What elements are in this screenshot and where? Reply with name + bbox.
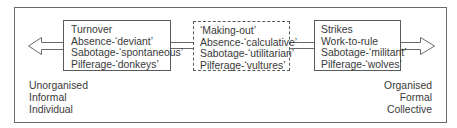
right-pole-label: Collective [384,104,432,116]
right-box-line: Strikes [321,24,400,36]
left-box-individual-conflict: Turnover Absence-‘deviant’ Sabotage-‘spo… [63,20,171,71]
right-pole-label: Formal [384,92,432,104]
left-box-line: Turnover [71,24,170,36]
middle-box-line: Absence-‘calculative’ [200,37,289,49]
left-box-line: Pilferage-‘donkeys’ [71,59,170,71]
middle-box-line: Sabotage-‘utilitarian’ [200,48,289,60]
left-box-line: Sabotage-‘spontaneous’ [71,47,170,59]
right-box-line: Work-to-rule [321,36,400,48]
continuum-diagram: Turnover Absence-‘deviant’ Sabotage-‘spo… [0,0,457,128]
right-box-collective-conflict: Strikes Work-to-rule Sabotage-‘militant’… [314,20,401,71]
middle-box-line: Pilferage-‘vultures’ [200,60,289,72]
middle-box-line: ‘Making-out’ [200,25,289,37]
left-pole-label: Unorganised [29,80,88,92]
right-pole-labels: Organised Formal Collective [384,80,432,116]
right-box-line: Pilferage-‘wolves’ [321,59,400,71]
left-pole-label: Informal [29,92,88,104]
right-box-line: Sabotage-‘militant’ [321,47,400,59]
left-pole-labels: Unorganised Informal Individual [29,80,88,116]
arrow-left-icon [29,38,64,55]
left-pole-label: Individual [29,104,88,116]
middle-box-intermediate-conflict: ‘Making-out’ Absence-‘calculative’ Sabot… [193,21,290,71]
left-box-line: Absence-‘deviant’ [71,36,170,48]
right-pole-label: Organised [384,80,432,92]
